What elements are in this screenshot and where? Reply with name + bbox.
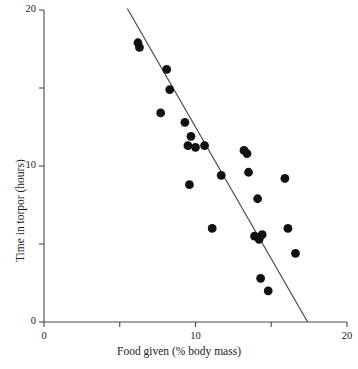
data-point bbox=[264, 286, 273, 295]
plot-canvas bbox=[0, 0, 358, 369]
axis-group bbox=[39, 10, 347, 327]
data-point bbox=[284, 224, 293, 233]
data-point bbox=[185, 180, 194, 189]
data-point bbox=[253, 194, 262, 203]
data-point bbox=[184, 141, 193, 150]
y-tick-label: 0 bbox=[10, 315, 36, 326]
regression-line-path bbox=[127, 8, 307, 322]
y-axis-label: Time in torpor (hours) bbox=[14, 159, 26, 262]
y-tick-label: 10 bbox=[10, 159, 36, 170]
x-tick-label: 20 bbox=[334, 330, 358, 341]
data-point bbox=[135, 43, 144, 52]
data-point bbox=[191, 143, 200, 152]
data-point bbox=[243, 149, 252, 158]
y-axis-ticks bbox=[39, 10, 44, 322]
data-point bbox=[244, 168, 253, 177]
data-point bbox=[280, 174, 289, 183]
y-tick-label: 20 bbox=[10, 3, 36, 14]
data-point bbox=[156, 109, 165, 118]
x-axis-ticks bbox=[44, 322, 347, 327]
data-point bbox=[208, 224, 217, 233]
x-axis-label: Food given (% body mass) bbox=[0, 345, 358, 357]
data-point bbox=[217, 171, 226, 180]
scatter-plot-figure: Food given (% body mass) Time in torpor … bbox=[0, 0, 358, 369]
data-point bbox=[180, 118, 189, 127]
data-points-group bbox=[134, 38, 300, 295]
data-point bbox=[165, 85, 174, 94]
data-point bbox=[187, 132, 196, 141]
x-tick-label: 0 bbox=[31, 330, 57, 341]
regression-line bbox=[127, 8, 307, 322]
data-point bbox=[255, 235, 264, 244]
x-tick-label: 10 bbox=[183, 330, 209, 341]
data-point bbox=[200, 141, 209, 150]
data-point bbox=[162, 65, 171, 74]
data-point bbox=[291, 249, 300, 258]
data-point bbox=[256, 274, 265, 283]
